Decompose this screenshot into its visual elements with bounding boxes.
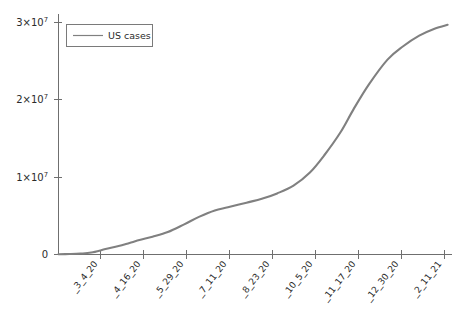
y-tick-label-1e7: 1×107 [16, 171, 48, 183]
legend-label-us-cases: US cases [108, 30, 151, 41]
y-tick-label-2e7: 2×107 [16, 93, 48, 105]
y-tick-label-3e7: 3×107 [16, 16, 48, 28]
x-tick-label-8: _2_11_21 [409, 259, 443, 299]
series-line-us-cases [59, 25, 448, 254]
x-tick-label-7: _12_30_20 [363, 259, 401, 304]
x-tick-label-2: _5_29_20 [151, 259, 186, 299]
y-tick-labels: 3×107 2×107 1×107 0 [16, 16, 48, 260]
x-tick-label-3: _7_11_20 [194, 259, 229, 299]
x-tick-label-6: _11_17_20 [320, 259, 358, 304]
x-tick-label-1: _4_16_20 [108, 259, 143, 299]
x-tick-label-5: _10_5_20 [280, 259, 315, 299]
chart-plot-area: 3×107 2×107 1×107 0 _3_4_20 _4_16_20 _5_… [0, 0, 470, 318]
chart-figure: 3×107 2×107 1×107 0 _3_4_20 _4_16_20 _5_… [0, 0, 470, 318]
x-tick-labels: _3_4_20 _4_16_20 _5_29_20 _7_11_20 _8_23… [69, 259, 444, 304]
x-tick-label-4: _8_23_20 [237, 259, 272, 299]
x-tick-label-0: _3_4_20 [69, 259, 100, 295]
legend: US cases [67, 25, 153, 47]
y-tick-label-0: 0 [42, 249, 48, 260]
